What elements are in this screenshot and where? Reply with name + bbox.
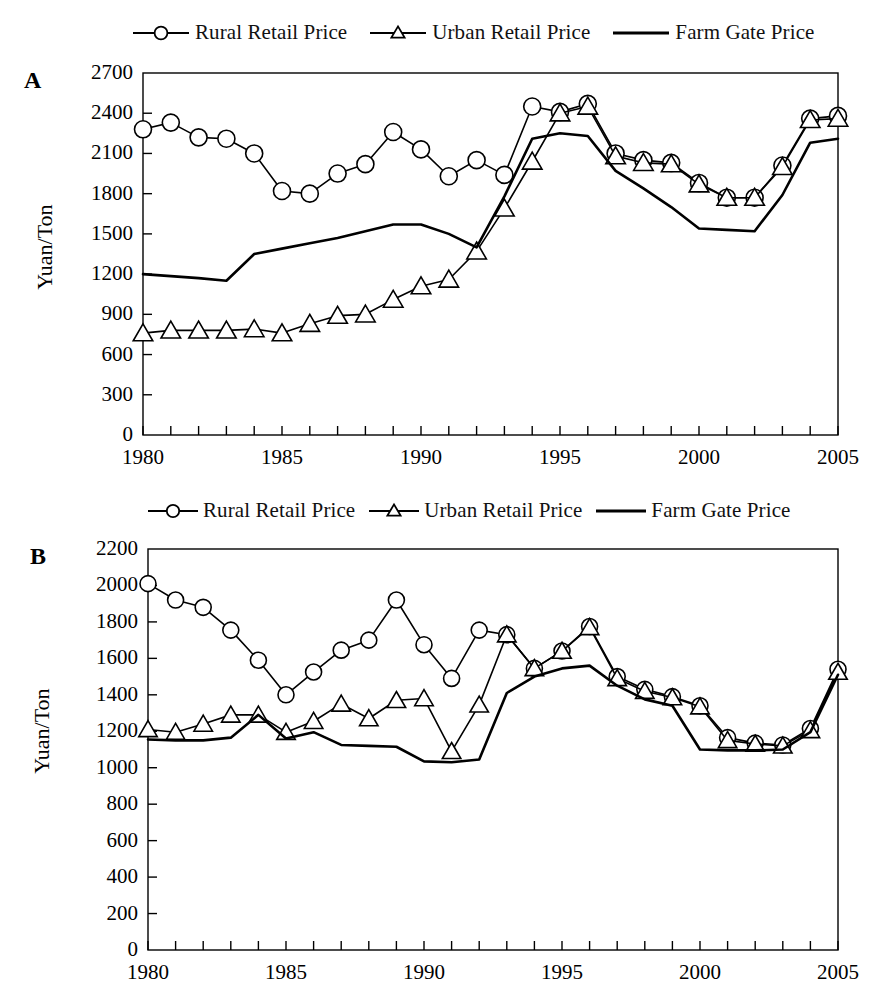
circle-open-marker-icon [140, 576, 156, 592]
panel-b-y-tick-label: 1200 [52, 720, 138, 741]
triangle-open-marker-icon [304, 712, 322, 728]
circle-open-marker-icon [357, 156, 374, 173]
circle-open-marker-icon [274, 182, 291, 199]
legend-item-farm-gate-price-b: Farm Gate Price [596, 500, 790, 521]
panel-b-x-tick-label: 1985 [246, 962, 326, 983]
panel-a-y-axis-title: Yuan/Ton [34, 187, 56, 307]
legend-label-rural-retail-price-b: Rural Retail Price [203, 500, 355, 521]
panel-b-x-tick-label: 2000 [660, 962, 740, 983]
triangle-open-marker-icon [470, 696, 488, 712]
triangle-open-marker-icon [194, 715, 212, 731]
panel-b-x-tick-label: 1980 [108, 962, 188, 983]
legend-label-rural-retail-price-a: Rural Retail Price [195, 22, 347, 43]
panel-a-y-tick-label: 600 [47, 344, 133, 365]
circle-open-marker-icon [416, 637, 432, 653]
panel-b-y-tick-label: 1600 [52, 647, 138, 668]
plain-line-icon [596, 502, 646, 520]
panel-b-y-tick-label: 2000 [52, 574, 138, 595]
panel-a-y-tick-label: 2700 [47, 62, 133, 83]
panel-a-x-tick-label: 1985 [242, 447, 322, 468]
panel-a-y-tick-label: 1800 [47, 183, 133, 204]
triangle-open-marker-icon [332, 695, 350, 711]
circle-open-marker-icon [413, 141, 430, 158]
legend-label-farm-gate-price-b: Farm Gate Price [651, 500, 790, 521]
panel-b-y-tick-label: 0 [52, 939, 138, 960]
circle-open-marker-icon [306, 664, 322, 680]
circle-open-marker-icon [329, 165, 346, 182]
panel-b-x-tick-label: 2005 [798, 962, 872, 983]
panel-b-x-tick-label: 1990 [384, 962, 464, 983]
circle-open-marker-icon [218, 130, 235, 147]
panel-a-y-tick-label: 0 [47, 424, 133, 445]
circle-open-marker-icon [471, 622, 487, 638]
panel-a-letter: A [24, 68, 41, 92]
panel-a-y-tick-label: 300 [47, 384, 133, 405]
legend-item-rural-retail-price-b: Rural Retail Price [148, 500, 355, 521]
circle-open-marker-icon [361, 632, 377, 648]
circle-open-marker-icon [444, 670, 460, 686]
triangle-open-marker-icon [442, 743, 460, 759]
panel-b-y-tick-label: 800 [52, 793, 138, 814]
figure-page: Rural Retail Price Urban Retail Price Fa… [0, 0, 872, 1004]
panel-a-x-tick-label: 1995 [520, 447, 600, 468]
panel-b-y-tick-label: 1400 [52, 684, 138, 705]
circle-open-marker-icon [524, 98, 541, 115]
panel-a-y-tick-label: 2100 [47, 142, 133, 163]
panel-a-x-tick-label: 2000 [659, 447, 739, 468]
panel-b-y-tick-label: 2200 [52, 538, 138, 559]
circle-open-marker-icon [468, 152, 485, 169]
circle-open-marker-icon [278, 687, 294, 703]
triangle-open-marker-icon [383, 290, 403, 307]
triangle-open-marker-icon [244, 320, 264, 337]
panel-b-y-axis-title: Yuan/Ton [31, 671, 53, 791]
panel-b-y-tick-label: 1800 [52, 611, 138, 632]
circle-open-marker-icon [250, 652, 266, 668]
panel-b-x-tick-label: 1995 [522, 962, 602, 983]
panel-b-y-tick-label: 1000 [52, 757, 138, 778]
legend-label-farm-gate-price-a: Farm Gate Price [675, 22, 814, 43]
panel-a-y-tick-label: 1200 [47, 263, 133, 284]
triangle-open-marker-icon [415, 690, 433, 706]
legend-label-urban-retail-price-a: Urban Retail Price [432, 22, 590, 43]
legend-item-farm-gate-price-a: Farm Gate Price [613, 22, 814, 43]
circle-open-marker-icon [148, 502, 198, 520]
triangle-open-marker-icon [370, 24, 426, 42]
legend-panel-a: Rural Retail Price Urban Retail Price Fa… [133, 22, 814, 43]
legend-panel-b: Rural Retail Price Urban Retail Price Fa… [148, 500, 790, 521]
circle-open-marker-icon [195, 599, 211, 615]
triangle-open-marker-icon [369, 502, 419, 520]
circle-open-marker-icon [190, 129, 207, 146]
circle-open-marker-icon [162, 114, 179, 131]
panel-a-y-tick-label: 1500 [47, 223, 133, 244]
circle-open-marker-icon [496, 166, 513, 183]
circle-open-marker-icon [385, 123, 402, 140]
triangle-open-marker-icon [161, 321, 181, 338]
triangle-open-marker-icon [300, 314, 320, 331]
circle-open-marker-icon [246, 145, 263, 162]
circle-open-marker-icon [301, 185, 318, 202]
circle-open-marker-icon [223, 622, 239, 638]
legend-item-rural-retail-price-a: Rural Retail Price [133, 22, 347, 43]
circle-open-marker-icon [133, 24, 189, 42]
plain-line-icon [613, 24, 669, 42]
panel-a-y-tick-label: 2400 [47, 102, 133, 123]
circle-open-marker-icon [388, 592, 404, 608]
chart-panel-b: B Yuan/Ton 02004006008001000120014001600… [0, 530, 872, 1004]
triangle-open-marker-icon [139, 721, 157, 737]
panel-b-y-tick-label: 200 [52, 903, 138, 924]
triangle-open-marker-icon [356, 305, 376, 322]
panel-b-letter: B [30, 544, 46, 568]
panel-a-x-tick-label: 1990 [381, 447, 461, 468]
panel-b-y-tick-label: 400 [52, 866, 138, 887]
panel-a-x-tick-label: 1980 [103, 447, 183, 468]
circle-open-marker-icon [333, 642, 349, 658]
triangle-open-marker-icon [189, 321, 209, 338]
circle-open-marker-icon [168, 592, 184, 608]
panel-a-y-tick-label: 900 [47, 303, 133, 324]
circle-open-marker-icon [135, 121, 152, 138]
legend-item-urban-retail-price-a: Urban Retail Price [370, 22, 590, 43]
triangle-open-marker-icon [360, 710, 378, 726]
legend-label-urban-retail-price-b: Urban Retail Price [424, 500, 582, 521]
chart-panel-a: A Yuan/Ton 03006009001200150018002100240… [0, 56, 872, 496]
panel-a-x-tick-label: 2005 [798, 447, 872, 468]
